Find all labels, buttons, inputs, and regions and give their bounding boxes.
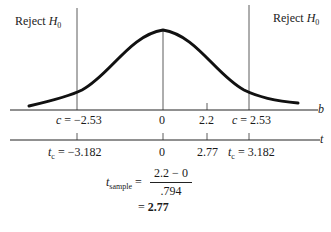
t-sample-label: tsample = (106, 175, 142, 191)
b-axis-name: b (318, 102, 324, 117)
t-tick-label-0: 0 (159, 145, 165, 160)
t-tick-label-neg: tc = −3.182 (48, 145, 101, 161)
reject-right-label: Reject H0 (273, 11, 319, 27)
numerator: 2.2 − 0 (150, 166, 192, 181)
fraction: 2.2 − 0 .794 (150, 166, 192, 199)
b-tick-label-2-2: 2.2 (199, 113, 214, 128)
t-axis-name: t (320, 132, 323, 147)
t-tick-label-pos: tc = 3.182 (228, 145, 275, 161)
b-tick-label-neg: c = −2.53 (56, 113, 102, 128)
bell-curve (29, 30, 298, 106)
b-tick-label-pos: c = 2.53 (232, 113, 271, 128)
result: = 2.77 (138, 200, 169, 215)
reject-left-label: Reject H0 (15, 14, 61, 30)
t-tick-label-2-77: 2.77 (197, 145, 218, 160)
b-tick-label-0: 0 (159, 113, 165, 128)
denominator: .794 (150, 182, 192, 199)
